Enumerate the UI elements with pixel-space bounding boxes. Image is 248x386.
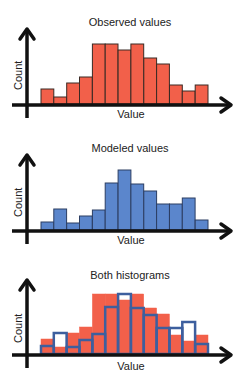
histogram-bar: [118, 170, 131, 230]
histogram-bar: [92, 210, 105, 230]
histogram-bar: [144, 58, 157, 104]
histogram-bar: [80, 216, 93, 230]
x-axis-label: Value: [0, 360, 248, 372]
histogram-bar: [182, 91, 195, 104]
histogram-bar: [67, 223, 80, 230]
histogram-bar: [144, 191, 157, 230]
y-axis-label: Count: [12, 188, 24, 217]
histogram-bar: [131, 184, 144, 230]
histogram-bar: [54, 209, 67, 230]
histogram-bar: [92, 294, 105, 354]
histogram-bar: [67, 333, 80, 354]
histogram-bar: [170, 204, 183, 230]
histogram-bar: [92, 44, 105, 104]
histogram-bar: [80, 77, 93, 104]
histogram-bar: [41, 89, 54, 104]
histogram-bar: [54, 97, 67, 104]
observed-histogram-panel: Observed values Count Value: [0, 0, 248, 125]
observed-histogram-plot: [0, 0, 248, 125]
histogram-bar: [131, 294, 144, 354]
histogram-bar: [157, 204, 170, 230]
histogram-bar: [105, 294, 118, 354]
histogram-bar: [170, 335, 183, 354]
y-axis-label: Count: [12, 314, 24, 343]
histogram-bar: [118, 300, 131, 354]
histogram-bar: [118, 50, 131, 104]
histogram-bar: [182, 198, 195, 230]
histogram-bar: [170, 85, 183, 104]
histogram-bar: [157, 314, 170, 354]
histogram-bar: [131, 44, 144, 104]
histogram-bar: [41, 222, 54, 230]
histogram-bar: [67, 83, 80, 104]
modeled-bars: [41, 170, 208, 230]
x-axis-label: Value: [0, 108, 248, 120]
histogram-bar: [105, 44, 118, 104]
modeled-histogram-panel: Modeled values Count Value: [0, 125, 248, 255]
histogram-bar: [105, 183, 118, 230]
histogram-bar: [157, 64, 170, 104]
observed-bars: [41, 44, 208, 104]
histogram-bar: [195, 85, 208, 104]
both-histograms-panel: Both histograms Count Value: [0, 255, 248, 386]
x-axis-label: Value: [0, 234, 248, 246]
histogram-bar: [182, 341, 195, 354]
y-axis-label: Count: [12, 61, 24, 90]
histogram-bar: [195, 220, 208, 230]
